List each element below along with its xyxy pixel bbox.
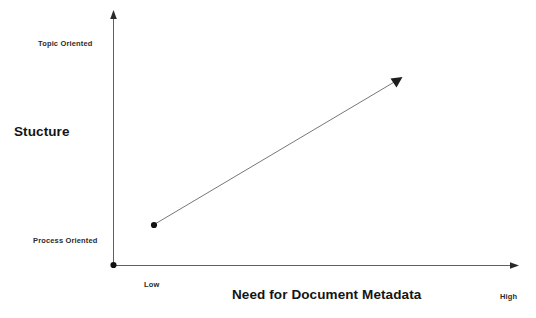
trend-arrow-head-icon (391, 77, 403, 88)
y-axis-high-tick-label: Topic Oriented (38, 39, 92, 48)
trend-arrow (151, 77, 403, 228)
y-axis (110, 10, 117, 265)
trend-start-marker (151, 222, 157, 228)
x-axis-low-tick-label: Low (144, 280, 159, 289)
y-axis-arrowhead-icon (110, 10, 117, 19)
chart-canvas: Topic Oriented Process Oriented Stucture… (0, 0, 536, 318)
x-axis-high-tick-label: High (500, 292, 517, 301)
x-axis-title: Need for Document Metadata (232, 287, 421, 302)
x-axis (114, 262, 520, 269)
y-axis-low-tick-label: Process Oriented (33, 236, 98, 245)
y-axis-title: Stucture (14, 124, 70, 139)
origin-marker (110, 262, 116, 268)
x-axis-arrowhead-icon (510, 262, 519, 269)
trend-arrow-line (155, 81, 396, 224)
